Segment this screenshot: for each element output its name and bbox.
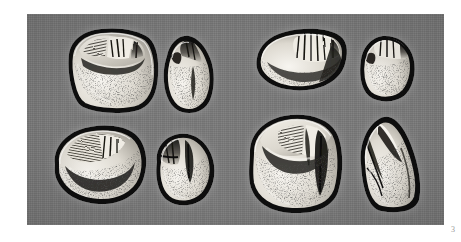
- specimen-lower-right-occlusal[interactable]: [240, 108, 350, 220]
- specimen-plate-panel: [27, 14, 444, 225]
- plate-root: 3: [0, 0, 461, 242]
- specimen-lower-right-lateral[interactable]: [345, 108, 435, 218]
- specimen-upper-left-lateral[interactable]: [153, 30, 223, 118]
- specimen-upper-right-lateral[interactable]: [349, 28, 421, 106]
- specimen-lower-left-occlusal[interactable]: [41, 118, 157, 210]
- specimen-upper-right-occlusal[interactable]: [247, 22, 353, 98]
- figure-number: 3: [451, 226, 455, 234]
- specimen-lower-left-lateral[interactable]: [145, 126, 221, 212]
- specimen-upper-left-occlusal[interactable]: [53, 24, 165, 116]
